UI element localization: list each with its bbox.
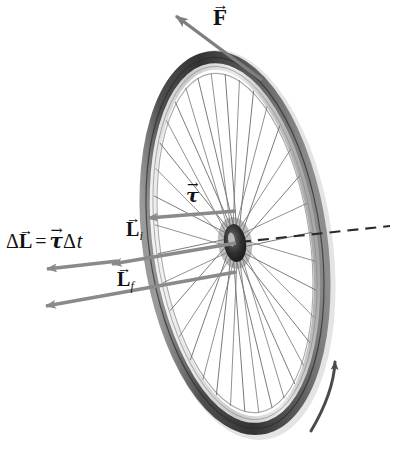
delta-symbol: Δ <box>6 230 19 252</box>
delta-symbol-2: Δ <box>63 230 76 252</box>
vector-accent-arrow: → <box>117 261 131 275</box>
vector-accent-arrow: → <box>51 223 63 237</box>
bicycle-wheel <box>123 43 352 446</box>
spoke <box>233 80 239 226</box>
spoke <box>234 259 245 412</box>
initial-angular-momentum-label: →Li <box>126 219 143 242</box>
delta-angular-momentum-equation: Δ→L=→τΔt <box>6 231 82 251</box>
vector-accent-arrow: → <box>212 0 228 14</box>
final-angular-momentum-arrow <box>46 272 236 306</box>
torque-vector-label: →τ <box>186 186 199 205</box>
spoke <box>236 106 267 227</box>
spoke <box>243 246 315 318</box>
vector-accent-arrow: → <box>19 223 33 237</box>
delta-angular-momentum-arrow <box>47 261 118 269</box>
equals-sign: = <box>35 230 46 252</box>
physics-figure: →F →τ →Li →Lf Δ→L=→τΔt <box>0 0 393 457</box>
spoke <box>231 260 237 406</box>
spoke <box>243 232 313 247</box>
spoke <box>236 260 272 408</box>
torque-arrow <box>148 211 236 218</box>
vector-accent-arrow: → <box>126 211 140 225</box>
time-variable: t <box>77 230 83 252</box>
vector-accent-arrow: → <box>187 178 198 192</box>
spoke <box>225 74 236 227</box>
final-angular-momentum-label: →Lf <box>117 269 134 292</box>
spoke <box>198 78 234 226</box>
force-vector-label: →F <box>213 6 227 29</box>
final-subscript: f <box>131 279 134 293</box>
initial-subscript: i <box>140 229 143 243</box>
